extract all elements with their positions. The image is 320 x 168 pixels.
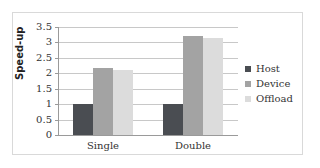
legend-item-device: Device [245, 76, 293, 91]
legend-swatch-icon [245, 81, 251, 87]
bar-offload-double [203, 38, 223, 135]
y-tick-label: 3 [22, 37, 52, 47]
legend: HostDeviceOffload [245, 61, 293, 106]
y-tick-label: 3.5 [22, 22, 52, 32]
bar-device-double [183, 36, 203, 135]
legend-label: Device [256, 78, 290, 89]
legend-swatch-icon [245, 66, 251, 72]
y-tick-label: 2 [22, 68, 52, 78]
y-tick-label: 2.5 [22, 53, 52, 63]
y-axis [58, 27, 59, 135]
x-tick-label: Single [68, 140, 138, 151]
legend-item-offload: Offload [245, 91, 293, 106]
y-tick-label: 1.5 [22, 84, 52, 94]
bar-host-double [163, 104, 183, 135]
legend-label: Offload [256, 93, 293, 104]
gridline [58, 27, 238, 28]
bar-offload-single [113, 70, 133, 135]
legend-swatch-icon [245, 96, 251, 102]
x-tick-label: Double [158, 140, 228, 151]
bar-host-single [73, 104, 93, 135]
plot-area: 00.511.522.533.5 [58, 27, 238, 135]
bar-device-single [93, 68, 113, 135]
x-axis [58, 135, 238, 136]
y-tick-label: 1 [22, 99, 52, 109]
legend-label: Host [256, 63, 280, 74]
y-tick-label: 0.5 [22, 115, 52, 125]
legend-item-host: Host [245, 61, 293, 76]
y-tick-label: 0 [22, 130, 52, 140]
